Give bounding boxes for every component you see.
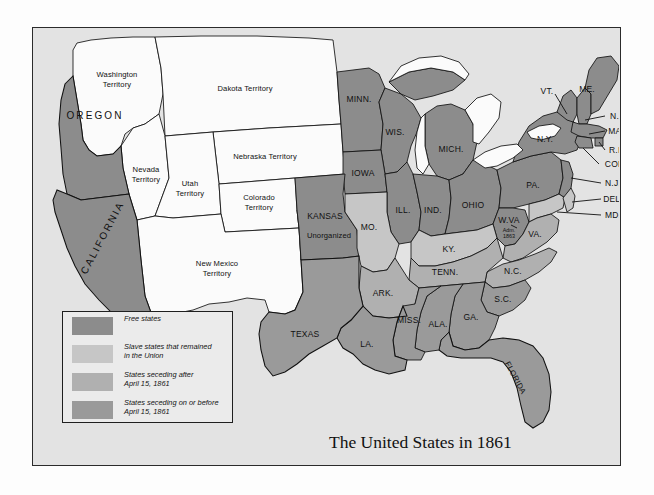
map-legend: Free states Slave states that remained i…	[62, 311, 233, 423]
map-title: The United States in 1861	[329, 432, 512, 453]
label-rhode-island: R.I.	[609, 145, 619, 155]
label-ohio: OHIO	[462, 200, 485, 210]
label-iowa: IOWA	[351, 168, 374, 178]
legend-swatch-free-states	[72, 317, 113, 335]
label-michigan: MICH.	[438, 144, 463, 154]
legend-label-union-slave-states: Slave states that remained in the Union	[124, 343, 212, 360]
label-massachusetts: MASS.	[608, 126, 619, 136]
legend-row-seceded-after[interactable]: States seceding after April 15, 1861	[63, 371, 232, 396]
label-nevada-territory: Nevada	[133, 165, 160, 174]
map-page: Washington Territory Dakota Territory Ne…	[0, 0, 654, 495]
minnesota-shape[interactable]	[337, 68, 385, 152]
map-panel: Washington Territory Dakota Territory Ne…	[32, 27, 621, 466]
label-alabama: ALA.	[428, 319, 447, 329]
label-new-mexico-territory-2: Territory	[203, 269, 231, 278]
label-louisiana: LA.	[360, 339, 373, 349]
label-vermont: VT.	[541, 86, 554, 96]
label-kentucky: KY.	[442, 244, 455, 254]
label-south-carolina: S.C.	[494, 294, 511, 304]
label-utah-territory-2: Territory	[176, 189, 204, 198]
leader-maryland	[557, 212, 601, 215]
label-pennsylvania: PA.	[526, 180, 540, 190]
label-new-mexico-territory: New Mexico	[196, 259, 238, 268]
label-connecticut: CONN.	[605, 159, 619, 169]
label-unorganized-territory: Unorganized	[307, 231, 351, 240]
legend-row-free-states[interactable]: Free states	[63, 315, 232, 340]
label-wisconsin: WIS.	[385, 127, 404, 137]
legend-row-seceded-on-or-before[interactable]: States seceding on or before April 15, 1…	[63, 399, 232, 424]
label-maryland: MD.	[605, 210, 619, 220]
legend-label-seceded-on-or-before: States seceding on or before April 15, 1…	[124, 399, 219, 416]
label-nevada-territory-2: Territory	[132, 175, 160, 184]
label-indiana: IND.	[424, 205, 442, 215]
label-texas: TEXAS	[291, 329, 320, 339]
label-colorado-territory: Colorado	[243, 193, 275, 202]
label-arkansas: ARK.	[373, 288, 394, 298]
label-west-virginia: W.VA	[498, 215, 520, 225]
legend-label-seceded-after: States seceding after April 15, 1861	[124, 371, 193, 388]
label-nebraska-territory: Nebraska Territory	[233, 152, 297, 161]
label-tennessee: TENN.	[432, 267, 459, 277]
label-utah-territory: Utah	[182, 179, 198, 188]
leader-new-jersey	[571, 178, 601, 183]
legend-row-union-slave-states[interactable]: Slave states that remained in the Union	[63, 343, 232, 368]
legend-swatch-seceded-on-or-before	[72, 401, 113, 419]
leader-delaware	[572, 199, 601, 202]
label-mississippi: MISS.	[397, 315, 421, 325]
legend-label-free-states: Free states	[124, 315, 161, 324]
label-washington-territory: Washington	[97, 70, 138, 79]
label-virginia: VA.	[528, 229, 542, 239]
label-maine: ME.	[579, 84, 595, 94]
label-new-jersey: N.J.	[605, 178, 619, 188]
label-north-carolina: N.C.	[504, 266, 522, 276]
label-new-york: N.Y.	[537, 134, 553, 144]
leader-connecticut	[583, 148, 599, 164]
label-illinois: ILL.	[396, 205, 411, 215]
legend-swatch-seceded-after	[72, 373, 113, 391]
connecticut-shape[interactable]	[575, 136, 593, 148]
label-delaware: DEL.	[603, 194, 619, 204]
label-minnesota: MINN.	[346, 94, 371, 104]
florida-shape[interactable]	[439, 332, 551, 428]
label-oregon: OREGON	[66, 110, 123, 121]
label-washington-territory-2: Territory	[103, 80, 131, 89]
legend-swatch-union-slave-states	[72, 345, 113, 363]
label-new-hampshire: N.H.	[610, 111, 619, 121]
label-dakota-territory: Dakota Territory	[217, 84, 272, 93]
label-missouri: MO.	[361, 222, 378, 232]
label-kansas: KANSAS	[307, 211, 343, 221]
label-west-virginia-note-2: 1863	[503, 233, 515, 239]
label-georgia: GA.	[463, 312, 478, 322]
label-colorado-territory-2: Territory	[245, 203, 273, 212]
